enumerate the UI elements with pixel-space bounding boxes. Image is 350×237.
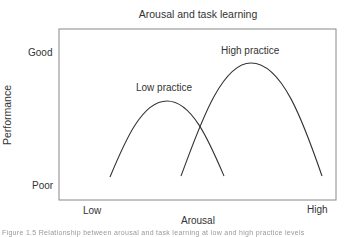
x-tick-high: High <box>307 204 328 215</box>
x-axis-label: Arousal <box>181 215 215 226</box>
y-tick-poor: Poor <box>32 180 53 191</box>
low-practice-label: Low practice <box>136 82 192 93</box>
y-tick-good: Good <box>28 47 52 58</box>
high-practice-curve <box>181 63 322 176</box>
low-practice-curve <box>110 101 224 177</box>
plot-frame <box>59 29 336 200</box>
x-tick-low: Low <box>83 205 101 216</box>
figure-caption: Figure 1.5 Relationship between arousal … <box>2 229 305 236</box>
plot-area <box>0 0 350 237</box>
y-axis-label: Performance <box>1 85 13 145</box>
high-practice-label: High practice <box>221 45 279 56</box>
